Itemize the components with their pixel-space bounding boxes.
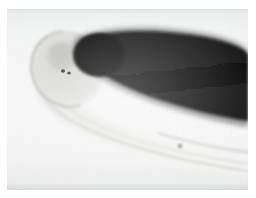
photo-frame — [7, 9, 248, 190]
screenshot-root: Specimen micrograph elongated larval org… — [0, 0, 256, 198]
frame-vignette — [7, 9, 248, 190]
frame-edge-bottom — [7, 183, 248, 190]
frame-edge-top — [7, 9, 248, 14]
